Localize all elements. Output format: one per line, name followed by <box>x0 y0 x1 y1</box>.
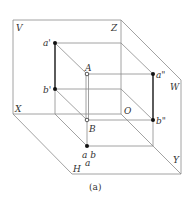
projection-diagram: V Z W X O Y H a' b' A B a" b" a b a (a) <box>0 0 191 204</box>
label-V: V <box>16 23 24 33</box>
point-B <box>85 118 89 122</box>
label-Z: Z <box>110 23 118 33</box>
label-b-prime: b' <box>43 85 51 95</box>
point-ab <box>85 144 89 148</box>
frame-lines <box>13 20 181 174</box>
thick-segments <box>55 43 153 120</box>
point-b-double-prime <box>151 118 155 122</box>
label-a-double-prime: a" <box>156 70 166 80</box>
label-X: X <box>14 104 22 114</box>
label-B: B <box>88 124 96 134</box>
label-Y: Y <box>173 155 180 165</box>
labels: V Z W X O Y H a' b' A B a" b" a b a (a) <box>14 23 180 192</box>
points <box>53 41 155 148</box>
label-a-bottom: a <box>85 158 90 168</box>
figure-caption: (a) <box>89 182 101 192</box>
point-b-prime <box>53 87 57 91</box>
label-A: A <box>84 63 92 73</box>
label-O: O <box>124 106 132 116</box>
point-a-prime <box>53 41 57 45</box>
label-W: W <box>170 82 180 92</box>
point-a-double-prime <box>151 72 155 76</box>
label-H: H <box>72 164 81 174</box>
label-a-prime: a' <box>43 38 51 48</box>
label-b-double-prime: b" <box>156 116 166 126</box>
